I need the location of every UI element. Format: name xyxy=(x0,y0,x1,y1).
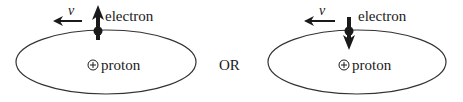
spin-up-arrow-icon xyxy=(92,5,104,40)
diagram-left: v electron proton xyxy=(16,3,196,94)
proton-plus-icon xyxy=(339,60,349,70)
spin-down-arrow-icon xyxy=(343,17,355,50)
proton-label: proton xyxy=(101,57,141,73)
proton-label: proton xyxy=(352,57,392,73)
electron-label: electron xyxy=(358,8,407,24)
velocity-label: v xyxy=(319,3,326,18)
electron-label: electron xyxy=(105,8,154,24)
velocity-label: v xyxy=(68,3,75,18)
proton-plus-icon xyxy=(88,60,98,70)
or-separator: OR xyxy=(219,57,240,73)
diagram-right: v electron proton xyxy=(268,3,446,94)
